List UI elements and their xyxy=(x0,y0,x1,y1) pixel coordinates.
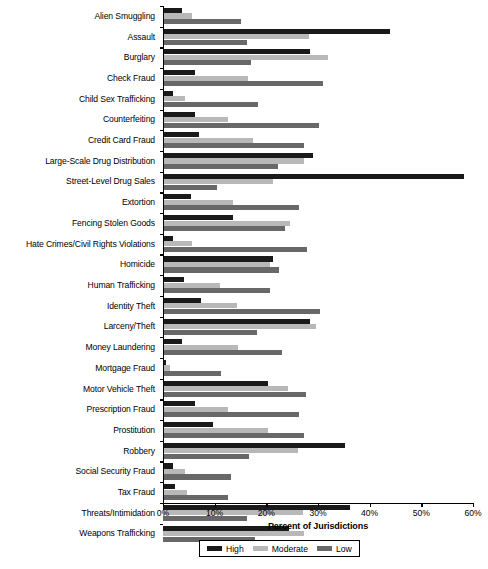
category-label: Extortion xyxy=(0,192,159,213)
x-tick-label: 30% xyxy=(309,508,326,518)
legend-item-high[interactable]: High xyxy=(207,544,244,554)
category-label: Weapons Trafficking xyxy=(0,524,159,545)
x-tick-label: 0% xyxy=(157,508,169,518)
category-label: Prostitution xyxy=(0,420,159,441)
x-tick-label: 50% xyxy=(413,508,430,518)
x-tick-label: 40% xyxy=(361,508,378,518)
category-label: Motor Vehicle Theft xyxy=(0,379,159,400)
legend-label: Moderate xyxy=(272,544,308,554)
category-label: Larceny/Theft xyxy=(0,317,159,338)
category-label: Social Security Fraud xyxy=(0,461,159,482)
category-label: Credit Card Fraud xyxy=(0,130,159,151)
legend-item-low[interactable]: Low xyxy=(317,544,352,554)
category-label: Fencing Stolen Goods xyxy=(0,213,159,234)
category-label: Prescription Fraud xyxy=(0,399,159,420)
category-label: Hate Crimes/Civil Rights Violations xyxy=(0,234,159,255)
plot-area xyxy=(163,6,474,503)
x-axis-ticks: 0%10%20%30%40%50%60% xyxy=(0,503,488,519)
bar-chart: Alien SmugglingAssaultBurglaryCheck Frau… xyxy=(0,0,488,569)
category-label: Child Sex Trafficking xyxy=(0,89,159,110)
category-label: Counterfeiting xyxy=(0,110,159,131)
category-label: Robbery xyxy=(0,441,159,462)
legend-label: Low xyxy=(336,544,352,554)
category-label: Burglary xyxy=(0,47,159,68)
category-label: Check Fraud xyxy=(0,68,159,89)
legend-item-moderate[interactable]: Moderate xyxy=(253,544,308,554)
category-label: Homicide xyxy=(0,254,159,275)
legend-label: High xyxy=(226,544,244,554)
category-label: Assault xyxy=(0,27,159,48)
category-label: Tax Fraud xyxy=(0,482,159,503)
category-label: Alien Smuggling xyxy=(0,6,159,27)
chart-legend: HighModerateLow xyxy=(199,540,360,557)
bar-moderate xyxy=(163,531,304,536)
x-tick xyxy=(421,503,422,507)
x-tick-label: 60% xyxy=(464,508,481,518)
x-tick xyxy=(266,503,267,507)
x-tick xyxy=(215,503,216,507)
category-label: Street-Level Drug Sales xyxy=(0,172,159,193)
category-label: Mortgage Fraud xyxy=(0,358,159,379)
x-tick-label: 10% xyxy=(206,508,223,518)
category-label: Large-Scale Drug Distribution xyxy=(0,151,159,172)
legend-swatch-low xyxy=(317,546,332,551)
category-label: Identity Theft xyxy=(0,296,159,317)
legend-swatch-moderate xyxy=(253,546,268,551)
legend-swatch-high xyxy=(207,546,222,551)
x-tick xyxy=(473,503,474,507)
x-tick xyxy=(163,503,164,507)
x-tick-label: 20% xyxy=(258,508,275,518)
category-label: Money Laundering xyxy=(0,337,159,358)
x-tick xyxy=(318,503,319,507)
x-tick xyxy=(370,503,371,507)
category-label: Human Trafficking xyxy=(0,275,159,296)
x-axis-title: Percent of Jurisdictions xyxy=(163,521,473,531)
